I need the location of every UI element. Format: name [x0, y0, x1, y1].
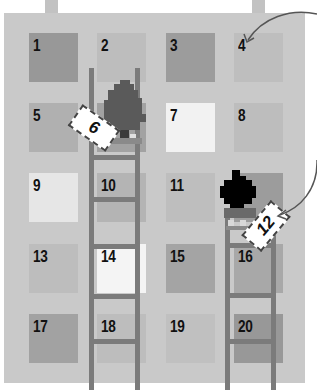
- arrow-to-4-icon: [244, 12, 317, 42]
- arrow-to-12-icon: [278, 160, 317, 219]
- arrows-layer: [0, 0, 317, 390]
